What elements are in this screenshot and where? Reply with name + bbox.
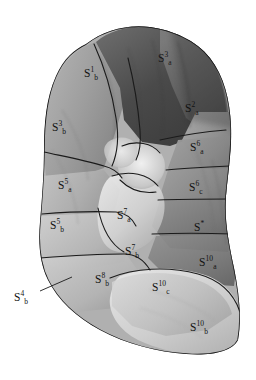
label-s10b: S10b <box>190 322 208 334</box>
label-s10c: S10c <box>152 282 170 294</box>
label-s3b: S3b <box>52 122 66 134</box>
specimen-body <box>0 0 256 380</box>
label-s6a: S6a <box>190 142 204 154</box>
label-s4b: S4b <box>14 292 28 304</box>
label-s2a: S2a <box>185 103 199 115</box>
label-s5b: S5b <box>50 220 64 232</box>
label-s10c-sub: c <box>166 287 169 296</box>
label-s5b-sub: b <box>60 225 64 234</box>
label-s2a-sub: a <box>195 108 198 117</box>
label-s8b-sub: b <box>105 279 109 288</box>
label-s7a-sub: a <box>127 215 130 224</box>
label-s10b-sub: b <box>204 327 208 336</box>
label-s1b-sub: b <box>94 73 98 82</box>
label-s6a-sub: a <box>200 147 203 156</box>
label-s3b-sub: b <box>62 127 66 136</box>
label-s5a: S5a <box>58 180 72 192</box>
label-s7a: S7a <box>117 210 131 222</box>
label-s1b: S1b <box>84 68 98 80</box>
label-s4b-sub: b <box>24 297 28 306</box>
label-s7b: S7b <box>125 246 139 258</box>
label-s3a: S3a <box>158 53 172 65</box>
label-s6c-sub: c <box>199 187 202 196</box>
label-s10a-sub: a <box>213 262 216 271</box>
label-s6c: S6c <box>189 182 203 194</box>
label-s5a-sub: a <box>68 185 71 194</box>
label-s-star: S* <box>194 222 204 234</box>
label-s7b-sub: b <box>135 251 139 260</box>
figure-container: S3a S1b S2a S3b S6a S5a S6c S7a S* S5b S… <box>0 0 256 380</box>
specimen-illustration <box>0 0 256 380</box>
label-s8b: S8b <box>95 274 109 286</box>
label-s-star-sup: * <box>201 219 205 228</box>
label-s10a: S10a <box>199 257 217 269</box>
label-s3a-sub: a <box>168 58 171 67</box>
